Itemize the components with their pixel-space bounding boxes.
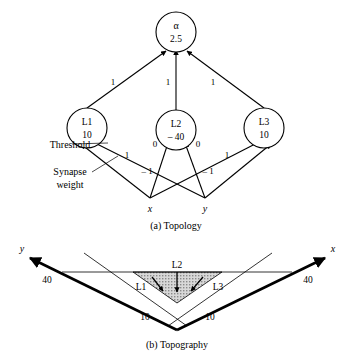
weight-L2-alpha: 1	[166, 77, 171, 87]
input-label-x: x	[147, 203, 153, 214]
synapse-annotation-line2: weight	[56, 179, 83, 190]
hidden-node-L2[interactable]: L2 – 40	[156, 110, 196, 150]
x-axis-value: 40	[303, 275, 313, 285]
x-axis-label: x	[330, 243, 336, 254]
y-axis-line	[30, 258, 177, 330]
edge-y-L3	[205, 144, 271, 198]
output-node-threshold: 2.5	[170, 34, 182, 44]
y-axis-label: y	[19, 243, 25, 254]
weight-L1-alpha: 1	[111, 77, 116, 87]
output-node-symbol: α	[173, 20, 179, 31]
weight-y-L3: 1	[225, 150, 230, 160]
threshold-annotation: Threshold	[50, 139, 91, 150]
edge-L3-alpha	[187, 51, 264, 108]
input-label-y: y	[202, 203, 208, 214]
hidden-node-circle	[244, 108, 284, 148]
hidden-node-L3[interactable]: L3 10	[244, 108, 284, 148]
hidden-node-threshold: – 40	[167, 132, 185, 142]
panel-a-caption: (a) Topology	[150, 220, 202, 232]
weight-x-L2: 0	[153, 139, 158, 149]
hidden-node-threshold: 10	[259, 130, 269, 140]
weight-y-L1: – 1	[140, 166, 152, 176]
hidden-node-name: L2	[171, 119, 182, 129]
hidden-node-name: L1	[82, 117, 93, 127]
synapse-annotation-line1: Synapse	[53, 166, 87, 177]
output-node-alpha[interactable]: α 2.5	[156, 12, 196, 52]
inner-value-right: 10	[205, 312, 215, 322]
weight-x-L1: 1	[125, 150, 130, 160]
inner-value-left: 10	[140, 312, 150, 322]
edge-x-L1	[81, 144, 150, 198]
region-label-L3: L3	[213, 282, 224, 292]
x-axis-line	[177, 258, 325, 330]
weight-x-L3: – 1	[201, 166, 213, 176]
panel-b-caption: (b) Topography	[146, 339, 208, 351]
edge-L1-alpha	[87, 51, 166, 108]
weight-y-L2: 0	[196, 139, 201, 149]
hidden-node-name: L3	[259, 117, 270, 127]
weight-L3-alpha: 1	[211, 77, 216, 87]
y-axis-value: 40	[42, 275, 52, 285]
output-node-circle	[156, 12, 196, 52]
region-label-L2: L2	[172, 260, 183, 270]
figure-root: α 2.5 L1 10 L2 – 40 L3 10 1 1 1 1 – 1 0 …	[0, 0, 353, 354]
region-label-L1: L1	[136, 282, 147, 292]
hidden-node-circle	[156, 110, 196, 150]
topography-panel: y x 40 40 L1 L2 L3 10 10 (b) Topography	[0, 236, 353, 354]
topology-panel: α 2.5 L1 10 L2 – 40 L3 10 1 1 1 1 – 1 0 …	[0, 0, 353, 236]
